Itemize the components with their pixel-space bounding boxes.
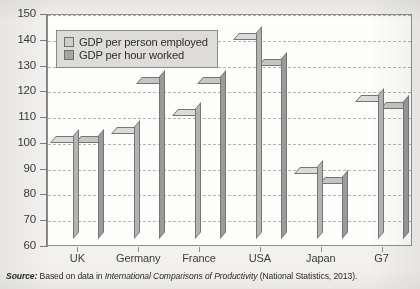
y-axis-spine [46, 14, 47, 247]
y-axis-label: 130 [0, 59, 36, 71]
bar-france-series1 [172, 116, 195, 246]
y-axis-tick [40, 220, 48, 221]
source-lead: Based on data in [40, 271, 103, 281]
legend-label: GDP per person employed [79, 36, 208, 48]
y-axis-tick [40, 117, 48, 118]
legend-item-gdp-per-hour-worked: GDP per hour worked [64, 49, 208, 61]
bar-side-face [220, 70, 226, 239]
y-axis-tick [40, 246, 48, 247]
legend-item-gdp-per-person-employed: GDP per person employed [64, 36, 208, 48]
y-axis-label: 60 [0, 239, 36, 251]
bleed-fragment: . [252, 0, 254, 2]
y-axis-tick [40, 169, 48, 170]
gridline [48, 92, 411, 93]
bar-side-face [281, 52, 287, 239]
legend-swatch-light [64, 37, 74, 47]
chart-legend: GDP per person employed GDP per hour wor… [56, 30, 218, 68]
y-axis-tick [40, 194, 48, 195]
x-axis-label-g7: G7 [351, 252, 412, 264]
source-prefix: Source: [6, 271, 37, 281]
bleed-fragment: . [150, 0, 152, 2]
bar-side-face [378, 88, 384, 239]
legend-swatch-dark [64, 50, 74, 60]
y-axis-tick [40, 14, 48, 15]
y-axis-label: 120 [0, 84, 36, 96]
bar-side-face [159, 70, 165, 239]
source-publisher: (National Statistics, 2013). [260, 271, 358, 281]
bleed-fragment: . . [96, 0, 102, 2]
bar-uk-series1 [50, 143, 73, 246]
source-publication-title: International Comparisons of Productivit… [105, 271, 258, 281]
y-axis-tick [40, 40, 48, 41]
bar-g7-series1 [355, 102, 378, 246]
source-caption: Source: Based on data in International C… [6, 271, 418, 281]
y-axis-label: 80 [0, 187, 36, 199]
bar-side-face [134, 120, 140, 239]
x-axis-label-france: France [169, 252, 230, 264]
bleed-fragment: . [364, 0, 366, 2]
bar-side-face [342, 170, 348, 239]
y-axis-label: 140 [0, 33, 36, 45]
y-axis [40, 14, 48, 247]
bar-side-face [98, 129, 104, 239]
bar-germany-series1 [111, 134, 134, 246]
bar-side-face [317, 160, 323, 239]
y-axis-tick [40, 143, 48, 144]
bar-side-face [256, 26, 262, 239]
gridline [48, 15, 411, 16]
y-axis-label: 100 [0, 136, 36, 148]
x-axis-label-germany: Germany [108, 252, 169, 264]
y-axis-label: 110 [0, 110, 36, 122]
y-axis-label: 90 [0, 162, 36, 174]
y-axis-label: 70 [0, 213, 36, 225]
bleed-fragment: . . [312, 0, 318, 2]
bar-side-face [403, 95, 409, 239]
x-axis-label-usa: USA [230, 252, 291, 264]
bar-side-face [73, 129, 79, 239]
y-axis-tick [40, 91, 48, 92]
x-axis-label-uk: UK [47, 252, 108, 264]
legend-label: GDP per hour worked [79, 49, 184, 61]
y-axis-tick [40, 66, 48, 67]
page-bleed-top: . . . . . . . [0, 0, 420, 9]
bar-side-face [195, 102, 201, 239]
bar-usa-series1 [233, 40, 256, 246]
x-axis-label-japan: Japan [290, 252, 351, 264]
bar-japan-series1 [294, 174, 317, 246]
